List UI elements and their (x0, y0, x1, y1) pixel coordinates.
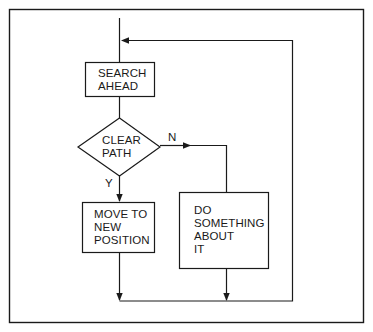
do-something-label: DO SOMETHING ABOUT IT (194, 204, 265, 256)
move-to-new-position-label: MOVE TO NEW POSITION (94, 208, 150, 247)
yes-branch-label: Y (105, 177, 113, 190)
search-ahead-label: SEARCH AHEAD (98, 67, 147, 93)
no-branch-line-down (188, 146, 227, 193)
flowchart-canvas (0, 0, 373, 332)
clear-path-label: CLEAR PATH (102, 134, 141, 160)
no-branch-label: N (168, 131, 176, 144)
outer-frame (10, 10, 364, 323)
